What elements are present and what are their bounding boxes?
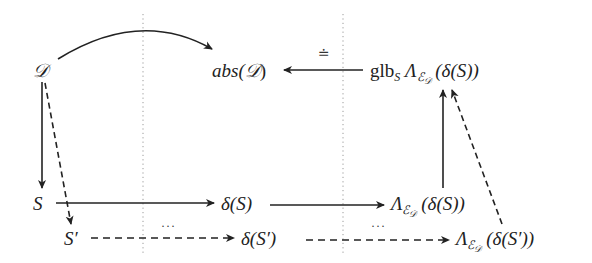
edge-d-to-absd (58, 31, 212, 59)
node-abs-d-mid: 𝒟 (245, 60, 260, 81)
edge-label-glb-to-absd: ≐ (318, 47, 331, 61)
node-delta-s-prime: δ(S′) (241, 229, 276, 248)
node-s-text: S (33, 193, 43, 214)
node-abs-d-prefix: abs( (212, 60, 245, 81)
node-d: 𝒟 (33, 61, 48, 80)
node-abs-d-suffix: ) (260, 60, 266, 81)
edge-label-dots-right: ··· (371, 220, 386, 232)
node-lambda-s-prime-lambda: Λ (456, 228, 467, 249)
node-d-text: 𝒟 (33, 60, 48, 81)
node-glb-lambda: Λ (405, 60, 416, 81)
node-lambda-s-lambda: Λ (391, 193, 402, 214)
node-lambda-s-prime: Λℰ𝒟 (δ(S′)) (456, 229, 534, 254)
node-glb-glb: glb (370, 60, 394, 81)
node-glb-sub: S (394, 70, 400, 84)
node-glb-d-sub: 𝒟 (424, 76, 431, 86)
diagram-canvas (0, 0, 592, 263)
node-s-prime-text: S′ (64, 228, 78, 249)
node-delta-s: δ(S) (221, 194, 252, 213)
node-glb-arg: (δ(S)) (431, 60, 479, 81)
edge-label-dots-left: ··· (161, 220, 176, 232)
node-s: S (33, 194, 43, 213)
node-lambda-s-prime-arg: (δ(S′)) (481, 228, 534, 249)
node-lambda-s: Λℰ𝒟 (δ(S)) (391, 194, 465, 219)
node-glb-e-sub: ℰ (417, 70, 424, 84)
node-delta-s-prime-text: δ(S′) (241, 228, 276, 249)
node-lambda-s-arg: (δ(S)) (416, 193, 464, 214)
node-s-prime: S′ (64, 229, 78, 248)
node-delta-s-text: δ(S) (221, 193, 252, 214)
node-glb: glbS Λℰ𝒟 (δ(S)) (370, 61, 479, 86)
node-abs-d: abs(𝒟) (212, 61, 266, 80)
